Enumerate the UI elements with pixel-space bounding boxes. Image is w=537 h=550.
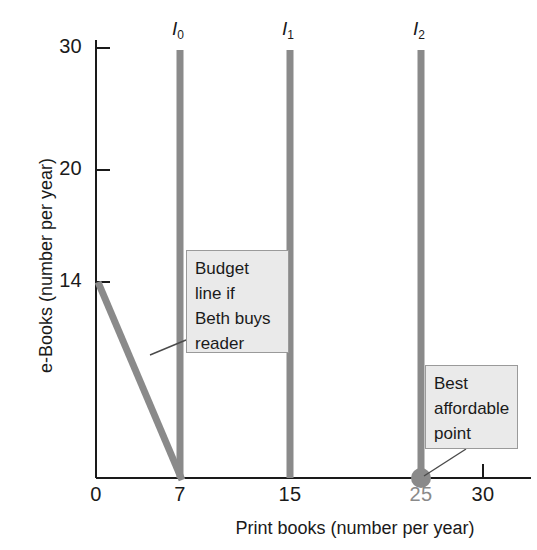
budget-callout-line-4: reader (195, 331, 280, 356)
curve-label-i1-sub: 1 (287, 28, 294, 42)
budget-callout-line-3: Beth buys (195, 306, 280, 331)
budget-callout-line-2: line if (195, 281, 280, 306)
y-tick-label-30: 30 (40, 35, 82, 58)
curve-label-i0-sub: 0 (177, 28, 184, 42)
x-axis-title: Print books (number per year) (180, 518, 530, 539)
indifference-curve-label-i2: I2 (413, 18, 425, 40)
budget-line (98, 282, 182, 480)
best-callout-line-3: point (434, 421, 509, 446)
x-tick-label-25: 25 (403, 483, 439, 506)
best-point-callout-leader-line (424, 449, 466, 476)
indifference-curve-label-i0: I0 (172, 18, 184, 40)
x-tick-label-0: 0 (78, 483, 114, 506)
budget-callout-line-1: Budget (195, 256, 280, 281)
indifference-curve-label-i1: I1 (282, 18, 294, 40)
best-affordable-point-callout: Best affordable point (425, 365, 518, 449)
curve-label-i2-sub: 2 (418, 28, 425, 42)
best-callout-line-1: Best (434, 371, 509, 396)
x-tick-label-7: 7 (162, 483, 198, 506)
budget-line-callout: Budget line if Beth buys reader (186, 250, 289, 353)
x-tick-label-15: 15 (272, 483, 308, 506)
best-callout-line-2: affordable (434, 396, 509, 421)
y-axis-title: e-Books (number per year) (36, 116, 57, 416)
x-tick-label-30: 30 (465, 483, 501, 506)
indifference-curve-figure: 30 20 14 0 7 15 25 30 e-Books (number pe… (0, 0, 537, 550)
